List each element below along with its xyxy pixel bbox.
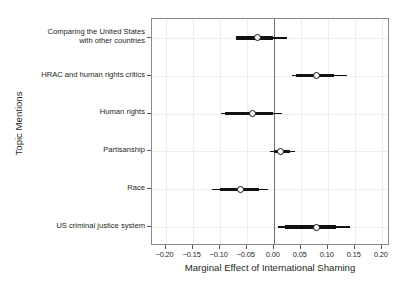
category-label-line: US criminal justice system <box>56 221 145 231</box>
category-label-line: with other countries <box>15 36 145 46</box>
x-tick-5 <box>300 245 301 249</box>
gridline-x-0 <box>166 19 167 244</box>
gridline-x-3 <box>247 19 248 244</box>
category-label: Human rights <box>100 107 145 117</box>
gridline-y-5 <box>152 227 388 228</box>
x-tick-label-3: −0.05 <box>237 250 255 259</box>
category-label-line: Human rights <box>100 107 145 117</box>
y-tick-2 <box>147 113 151 114</box>
category-label-line: Comparing the United States <box>15 27 145 37</box>
estimate-point-marker <box>313 224 320 231</box>
x-tick-3 <box>246 245 247 249</box>
gridline-x-2 <box>220 19 221 244</box>
confidence-interval-inner <box>285 225 336 228</box>
category-label: Comparing the United Stateswith other co… <box>15 27 145 46</box>
gridline-y-4 <box>152 189 388 190</box>
category-label-line: Partisanship <box>103 145 145 155</box>
category-label: Partisanship <box>103 145 145 155</box>
plot-area <box>151 18 389 245</box>
category-label: US criminal justice system <box>56 221 145 231</box>
x-tick-2 <box>219 245 220 249</box>
estimate-point-marker <box>277 148 284 155</box>
estimate-point-marker <box>254 34 261 41</box>
x-tick-4 <box>273 245 274 249</box>
x-tick-label-4: 0.00 <box>266 250 280 259</box>
category-label-line: Race <box>127 183 145 193</box>
category-label: HRAC and human rights critics <box>41 70 145 80</box>
y-tick-3 <box>147 150 151 151</box>
gridline-y-1 <box>152 76 388 77</box>
y-tick-0 <box>147 37 151 38</box>
x-tick-label-7: 0.15 <box>347 250 361 259</box>
category-label-line: HRAC and human rights critics <box>41 70 145 80</box>
y-tick-4 <box>147 188 151 189</box>
x-tick-label-2: −0.10 <box>210 250 228 259</box>
gridline-x-7 <box>355 19 356 244</box>
gridline-x-6 <box>328 19 329 244</box>
x-tick-6 <box>327 245 328 249</box>
x-axis-title: Marginal Effect of International Shaming <box>151 262 389 273</box>
gridline-x-1 <box>193 19 194 244</box>
y-tick-5 <box>147 226 151 227</box>
x-tick-8 <box>381 245 382 249</box>
zero-reference-line <box>274 19 275 244</box>
x-tick-1 <box>192 245 193 249</box>
x-tick-label-8: 0.20 <box>374 250 388 259</box>
estimate-point-marker <box>313 72 320 79</box>
x-tick-label-1: −0.15 <box>182 250 200 259</box>
x-tick-label-0: −0.20 <box>155 250 173 259</box>
estimate-point-marker <box>237 186 244 193</box>
x-tick-7 <box>354 245 355 249</box>
estimate-point-marker <box>249 110 256 117</box>
category-label: Race <box>127 183 145 193</box>
x-tick-label-5: 0.05 <box>293 250 307 259</box>
gridline-x-8 <box>382 19 383 244</box>
y-axis-title: Topic Mentions <box>13 54 24 194</box>
x-tick-0 <box>165 245 166 249</box>
coefficient-plot-figure: Topic Mentions −0.20−0.15−0.10−0.050.000… <box>0 0 399 291</box>
y-tick-1 <box>147 75 151 76</box>
x-tick-label-6: 0.10 <box>320 250 334 259</box>
gridline-x-5 <box>301 19 302 244</box>
